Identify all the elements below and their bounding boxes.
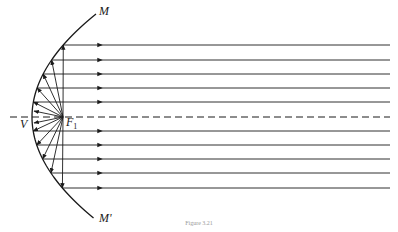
- label-focus: F1: [66, 115, 77, 131]
- incident-ray: [43, 74, 63, 117]
- parabolic-reflector-diagram: [0, 0, 398, 232]
- incident-ray: [33, 102, 63, 117]
- figure-caption: Figure 3.21: [0, 220, 398, 226]
- incident-ray: [52, 60, 63, 117]
- label-focus-subscript: 1: [73, 122, 77, 131]
- label-m: M: [99, 4, 109, 19]
- incident-ray: [62, 117, 63, 188]
- incident-ray: [43, 117, 63, 159]
- incident-ray: [33, 117, 63, 131]
- label-vertex: V: [20, 117, 27, 132]
